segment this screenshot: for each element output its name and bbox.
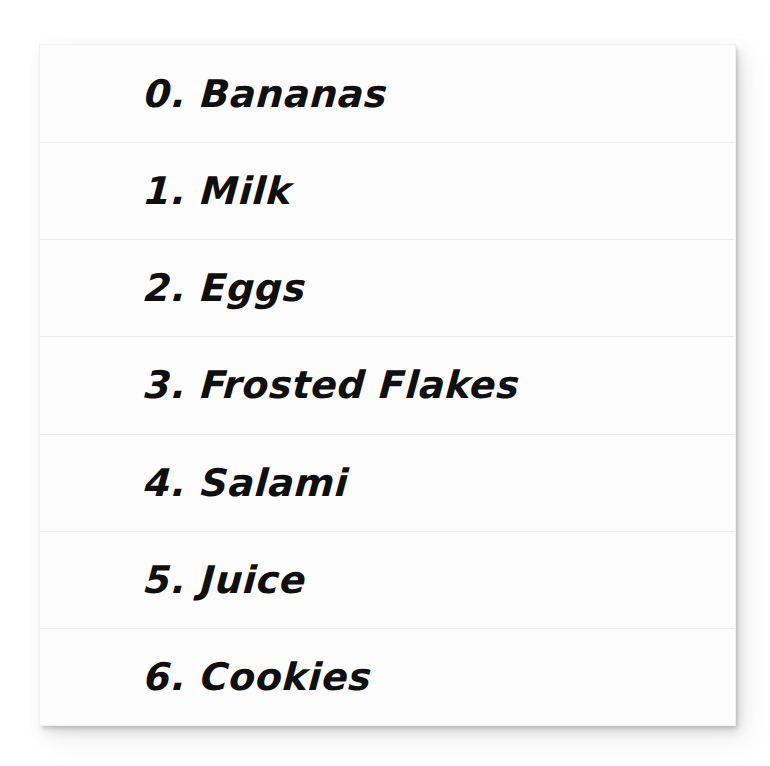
list-item[interactable]: 4. Salami [40, 434, 735, 531]
list-item-text: 6. Cookies [144, 658, 374, 696]
list-item-text: 3. Frosted Flakes [144, 366, 522, 404]
list-item[interactable]: 0. Bananas [40, 45, 735, 142]
list-item[interactable]: 6. Cookies [40, 628, 735, 725]
list-item[interactable]: 5. Juice [40, 531, 735, 628]
list-item-text: 5. Juice [144, 561, 308, 599]
list-item-text: 1. Milk [144, 172, 294, 210]
shopping-list-card: 0. Bananas 1. Milk 2. Eggs 3. Frosted Fl… [40, 45, 735, 725]
list-item-text: 4. Salami [144, 464, 350, 502]
list-item[interactable]: 3. Frosted Flakes [40, 336, 735, 433]
list-item-text: 0. Bananas [144, 75, 389, 113]
list-item-text: 2. Eggs [144, 269, 308, 307]
list-item[interactable]: 1. Milk [40, 142, 735, 239]
list-item[interactable]: 2. Eggs [40, 239, 735, 336]
clipped-top-text-strip [0, 0, 770, 9]
